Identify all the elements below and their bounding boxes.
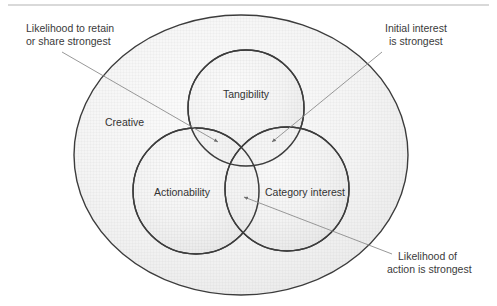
venn-diagram-figure: Tangibility Actionability Category inter… xyxy=(0,0,497,306)
label-category-interest: Category interest xyxy=(265,186,345,198)
annotation-retain-share-line-2: or share strongest xyxy=(26,35,111,47)
annotation-likelihood-action-line-1: Likelihood of xyxy=(398,250,457,262)
annotation-initial-interest-line-1: Initial interest xyxy=(385,22,447,34)
annotation-likelihood-action-line-2: action is strongest xyxy=(387,263,472,275)
annotation-initial-interest-line-2: is strongest xyxy=(389,35,443,47)
venn-diagram-canvas: Tangibility Actionability Category inter… xyxy=(0,0,497,306)
annotation-retain-share-line-1: Likelihood to retain xyxy=(26,22,114,34)
label-tangibility: Tangibility xyxy=(223,88,270,100)
label-creative: Creative xyxy=(105,116,144,128)
label-actionability: Actionability xyxy=(154,186,211,198)
